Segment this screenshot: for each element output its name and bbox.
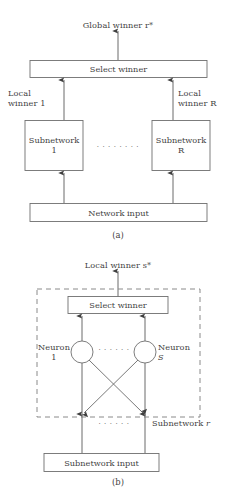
neuron-ellipsis-b: · · · · · ·: [96, 345, 132, 355]
select-winner-label-b: Select winner: [68, 296, 168, 314]
neuron-s-label: NeuronS: [158, 342, 198, 362]
subnetwork-r-boundary-var: r: [206, 418, 210, 428]
subnetwork-r-boundary-text: Subnetwork: [152, 418, 206, 428]
local-winner-r-label: Local winner R: [178, 88, 236, 108]
network-input-label: Network input: [30, 203, 207, 222]
neuron-s-label-index: S: [158, 352, 164, 362]
caption-a: (a): [0, 230, 236, 240]
subnetwork-ellipsis-a: · · · · · · · ·: [85, 142, 151, 152]
neuron-s-label-word: Neuron: [158, 342, 190, 352]
caption-b: (b): [0, 477, 236, 487]
local-winner-s-label: Local winner s*: [48, 260, 188, 270]
neuron-1-label: Neuron 1: [36, 342, 72, 362]
subnetwork-r-boundary-label: Subnetwork r: [152, 418, 236, 428]
neuron-s-circle: [134, 341, 156, 363]
figure-root: Global winner r* Select winner Local win…: [0, 0, 236, 495]
subnetwork-1-label: Subnetwork 1: [25, 120, 83, 170]
global-winner-label: Global winner r*: [48, 20, 188, 30]
local-winner-1-label: Local winner 1: [8, 88, 64, 108]
neuron-1-circle: [71, 341, 93, 363]
subnetwork-r-label: Subnetwork R: [152, 120, 210, 170]
select-winner-label-a: Select winner: [30, 60, 207, 78]
subnetwork-input-label: Subnetwork input: [44, 453, 159, 472]
cross-neuron-s-to-input-1: [84, 360, 138, 413]
cross-neuron-1-to-input-s: [89, 360, 143, 413]
input-ellipsis-b: · · · · · ·: [96, 419, 132, 429]
